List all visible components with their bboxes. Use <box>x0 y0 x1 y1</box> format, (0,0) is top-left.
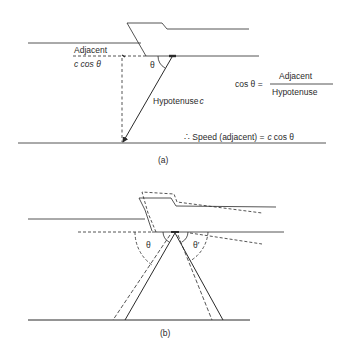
theta-label: θ <box>150 60 155 70</box>
theta-arc <box>158 56 165 68</box>
formula-lhs: cos θ = <box>235 79 263 89</box>
panel-a <box>18 23 333 143</box>
theta-prime-arc-small <box>182 232 188 242</box>
caption-b: (b) <box>160 328 171 338</box>
theta-label-b: θ <box>146 240 151 250</box>
adjacent-value: c cos θ <box>74 59 101 69</box>
formula-denominator: Hypotenuse <box>272 87 318 97</box>
adjacent-tick <box>122 55 125 57</box>
cosine-speed-diagram: Adjacent c cos θ θ Hypotenusec cos θ = A… <box>0 0 351 340</box>
theta-prime-label: θ′ <box>193 240 200 250</box>
adjacent-label: Adjacent <box>74 45 108 55</box>
panel-b-labels: θ θ′ (b) <box>146 240 200 338</box>
left-leg-dashed <box>113 235 170 320</box>
panel-a-labels: Adjacent c cos θ θ Hypotenusec cos θ = A… <box>74 45 318 165</box>
caption-a: (a) <box>158 155 169 165</box>
waterline-dashed-tilted <box>190 233 262 244</box>
boat-outline <box>127 23 249 56</box>
panel-b <box>28 192 284 320</box>
conclusion-text: ∴ Speed (adjacent) =ccos θ <box>184 132 294 142</box>
boat-outline-solid <box>139 198 276 231</box>
formula-numerator: Adjacent <box>279 71 313 81</box>
hypotenuse-label: Hypotenusec <box>153 96 204 106</box>
